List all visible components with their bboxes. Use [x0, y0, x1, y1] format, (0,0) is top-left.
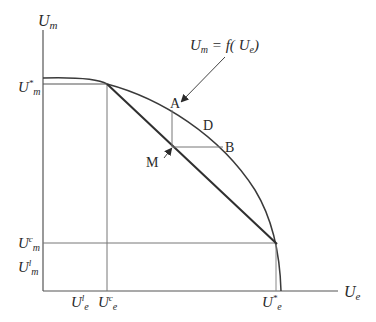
frontier-curve [43, 78, 281, 291]
point-label-b: B [225, 140, 234, 155]
y-tick-u-star-m: U*m [18, 78, 41, 97]
y-axis-label: Um [38, 12, 58, 31]
y-tick-u-l-m: Ulm [18, 258, 39, 277]
x-tick-u-star-e: U*e [262, 293, 282, 312]
diagram-canvas: Um Ue Um = f( Ue) U*m Ucm Ulm Ule Uce U*… [0, 0, 376, 322]
point-label-d: D [203, 118, 213, 133]
curve-equation-label: Um = f( Ue) [190, 37, 259, 55]
m-arrow [164, 149, 171, 158]
y-tick-u-c-m: Ucm [18, 234, 40, 253]
curve-label-arrow [182, 57, 225, 101]
point-label-m: M [146, 155, 159, 170]
x-axis-label: Ue [344, 283, 361, 302]
x-tick-u-c-e: Uce [98, 293, 118, 312]
x-tick-u-l-e: Ule [71, 293, 89, 312]
point-label-a: A [170, 96, 181, 111]
chord-line [107, 84, 277, 244]
frontier-diagram: Um Ue Um = f( Ue) U*m Ucm Ulm Ule Uce U*… [0, 0, 376, 322]
